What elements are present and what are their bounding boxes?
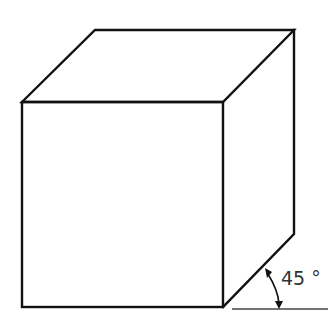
cube-right-face [223, 30, 294, 307]
cube-front-face [22, 102, 223, 307]
cube-diagram: 45 ° [0, 0, 335, 323]
angle-label: 45 ° [281, 267, 321, 289]
cube-top-face [22, 30, 294, 102]
